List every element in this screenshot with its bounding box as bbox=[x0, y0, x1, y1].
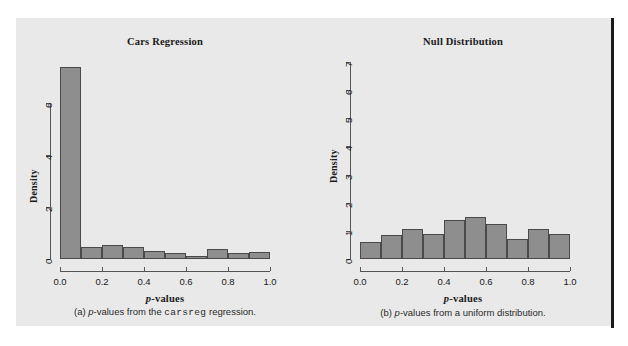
y-axis-title: Density bbox=[328, 149, 339, 183]
y-axis-tick-label: 0 bbox=[43, 259, 54, 264]
histogram-bar bbox=[102, 245, 123, 259]
y-axis-tick-label: 6 bbox=[43, 103, 54, 108]
histogram-bar bbox=[228, 253, 249, 259]
histogram-bar bbox=[165, 253, 186, 259]
caption-mid: -values from a uniform distribution. bbox=[400, 307, 546, 318]
x-axis-tick-label: 0.6 bbox=[475, 276, 497, 287]
figure-caption-b: (b) p-values from a uniform distribution… bbox=[314, 307, 612, 318]
histogram-bar bbox=[507, 239, 528, 259]
x-axis-tick-label: 0.0 bbox=[349, 276, 371, 287]
y-axis-tick-label: 7 bbox=[343, 62, 354, 67]
x-axis-tick-label: 0.4 bbox=[133, 276, 155, 287]
y-axis-line bbox=[50, 103, 51, 259]
histogram-bar bbox=[528, 229, 549, 259]
x-axis-tick-label: 0.2 bbox=[391, 276, 413, 287]
y-axis-tick-label: 4 bbox=[343, 146, 354, 151]
plot-canvas-right: 0.00.20.40.60.81.001234567Density bbox=[314, 18, 612, 326]
histogram-bar bbox=[423, 234, 444, 259]
figure-panel: Cars Regression 0.00.20.40.60.81.00246De… bbox=[16, 18, 612, 326]
x-axis-line bbox=[60, 271, 270, 272]
page-edge-line bbox=[611, 18, 614, 328]
histogram-bar bbox=[402, 229, 423, 259]
plot-canvas-left: 0.00.20.40.60.81.00246Density bbox=[16, 18, 314, 326]
x-axis-tick bbox=[102, 267, 103, 271]
x-axis-tick-label: 0.8 bbox=[217, 276, 239, 287]
y-axis-tick-label: 0 bbox=[343, 259, 354, 264]
histogram-bar bbox=[144, 251, 165, 259]
x-axis-tick bbox=[570, 267, 571, 271]
y-axis-tick-label: 2 bbox=[43, 207, 54, 212]
x-axis-tick-label: 0.6 bbox=[175, 276, 197, 287]
x-axis-tick bbox=[486, 267, 487, 271]
caption-code: carsreg bbox=[164, 307, 206, 318]
y-axis-tick-label: 6 bbox=[343, 90, 354, 95]
histogram-bar bbox=[123, 247, 144, 259]
x-axis-tick bbox=[186, 267, 187, 271]
y-axis-tick-label: 1 bbox=[343, 231, 354, 236]
histogram-bar bbox=[207, 249, 228, 259]
x-axis-title-rest: -values bbox=[151, 293, 184, 304]
x-axis-line bbox=[360, 271, 570, 272]
histogram-bar bbox=[381, 235, 402, 259]
histogram-bar bbox=[549, 234, 570, 259]
x-axis-tick-label: 0.2 bbox=[91, 276, 113, 287]
caption-prefix: (b) bbox=[380, 307, 394, 318]
x-axis-tick bbox=[528, 267, 529, 271]
x-axis-tick-label: 0.4 bbox=[433, 276, 455, 287]
x-axis-title-rest: -values bbox=[449, 293, 482, 304]
histogram-bar bbox=[81, 247, 102, 259]
caption-mid: -values from the bbox=[94, 306, 165, 317]
plot-null-distribution: Null Distribution 0.00.20.40.60.81.00123… bbox=[314, 18, 612, 326]
histogram-bar bbox=[465, 217, 486, 259]
x-axis-tick-label: 1.0 bbox=[259, 276, 281, 287]
figure-caption-a: (a) p-values from the carsreg regression… bbox=[16, 306, 314, 318]
histogram-bar bbox=[486, 224, 507, 259]
histogram-bar bbox=[444, 220, 465, 259]
histogram-bar bbox=[186, 256, 207, 259]
histogram-bar bbox=[249, 252, 270, 259]
x-axis-tick bbox=[270, 267, 271, 271]
x-axis-tick bbox=[144, 267, 145, 271]
x-axis-tick-label: 0.8 bbox=[517, 276, 539, 287]
y-axis-tick-label: 3 bbox=[343, 174, 354, 179]
x-axis-tick-label: 1.0 bbox=[559, 276, 581, 287]
x-axis-tick bbox=[360, 267, 361, 271]
y-axis-title: Density bbox=[28, 170, 39, 204]
caption-suffix: regression. bbox=[206, 306, 256, 317]
x-axis-tick bbox=[228, 267, 229, 271]
histogram-bar bbox=[360, 242, 381, 259]
x-axis-tick bbox=[402, 267, 403, 271]
plot-cars-regression: Cars Regression 0.00.20.40.60.81.00246De… bbox=[16, 18, 314, 326]
x-axis-title-right: p-values bbox=[314, 293, 612, 304]
y-axis-tick-label: 5 bbox=[343, 118, 354, 123]
caption-prefix: (a) bbox=[74, 306, 88, 317]
x-axis-tick bbox=[444, 267, 445, 271]
histogram-bar bbox=[60, 67, 81, 259]
x-axis-title-left: p-values bbox=[16, 293, 314, 304]
x-axis-tick-label: 0.0 bbox=[49, 276, 71, 287]
x-axis-tick bbox=[60, 267, 61, 271]
y-axis-tick-label: 2 bbox=[343, 202, 354, 207]
y-axis-tick-label: 4 bbox=[43, 155, 54, 160]
